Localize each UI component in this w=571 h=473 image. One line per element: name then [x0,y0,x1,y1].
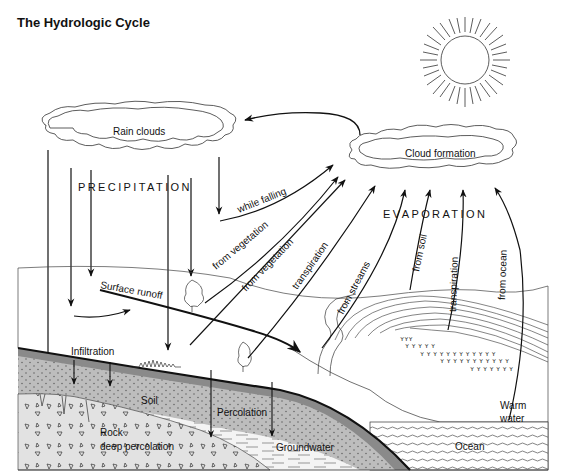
svg-text:ʏ ʏ ʏ ʏ ʏ: ʏ ʏ ʏ ʏ ʏ [405,342,435,350]
transpiration-label-marsh: transpiration [447,257,460,312]
from-soil-label: from soil [410,233,429,272]
evaporation-heading: EVAPORATION [383,208,487,220]
precipitation-heading: PRECIPITATION [78,181,192,193]
rock-label: Rock [100,427,124,438]
condensation-arrow [245,113,360,135]
ocean-label: Ocean [455,441,484,452]
land-surface-line [18,266,548,298]
warm-label: Warm [500,400,526,411]
cloud-formation-label: Cloud formation [405,148,476,159]
infiltration-label: Infiltration [71,346,114,357]
sun-icon [420,17,510,107]
percolation-label: Percolation [217,407,267,418]
rain-clouds-label: Rain clouds [113,126,165,137]
marsh-grass: ʏʏʏ ʏ ʏ ʏ ʏ ʏ ʏ ʏ ʏ ʏ ʏ ʏ ʏ ʏ ʏ ʏ ʏ ʏ ʏ … [400,335,513,373]
svg-text:ʏ ʏ ʏ ʏ ʏ ʏ ʏ ʏ ʏ ʏ ʏ: ʏ ʏ ʏ ʏ ʏ ʏ ʏ ʏ ʏ ʏ ʏ [440,357,509,365]
groundwater-label: Groundwater [276,442,334,453]
soil-label: Soil [141,395,158,406]
deep-percolation-label: deep percolation [100,441,174,452]
transpiration-label-land: transpiration [290,240,331,291]
grass-icon [133,360,181,367]
cloud-formation-icon [349,125,516,169]
from-ocean-label: from ocean [496,250,509,300]
svg-text:ʏ ʏ ʏ ʏ ʏ ʏ ʏ: ʏ ʏ ʏ ʏ ʏ ʏ ʏ [470,365,513,373]
water-label: water [499,413,525,424]
hydrologic-cycle-diagram: Rain clouds Cloud formation PRECIPITATIO… [0,0,571,473]
